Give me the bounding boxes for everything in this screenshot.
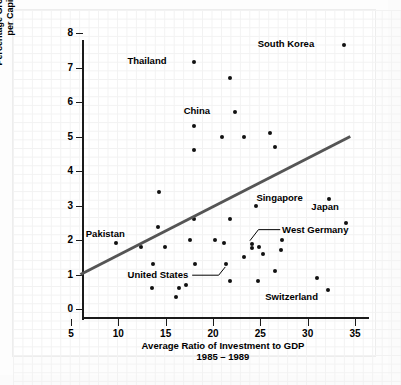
annotation-leader-lines	[13, 10, 377, 358]
leader-line-united-states	[192, 267, 225, 275]
chart-frame: 012345678 5101520253035 Percentage Growt…	[12, 9, 376, 357]
annotation-thailand: Thailand	[127, 55, 166, 66]
annotation-west-germany: West Germany	[282, 224, 348, 235]
annotation-china: China	[184, 105, 210, 116]
leader-line-west-germany	[250, 230, 280, 241]
annotation-united-states: United States	[128, 269, 189, 280]
annotation-switzerland: Switzerland	[265, 291, 318, 302]
annotation-japan: Japan	[311, 201, 338, 212]
annotation-pakistan: Pakistan	[86, 228, 125, 239]
annotation-south-korea: South Korea	[258, 38, 314, 49]
annotation-singapore: Singapore	[256, 192, 302, 203]
